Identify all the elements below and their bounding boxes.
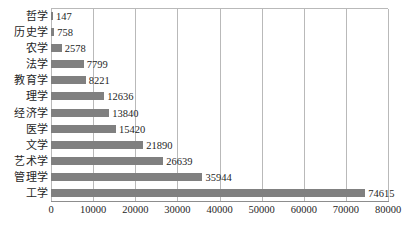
category-label: 哲学 [26, 10, 48, 22]
bar-row: 理学12636 [0, 88, 414, 104]
bar-row: 农学2578 [0, 40, 414, 56]
value-label: 12636 [104, 91, 133, 102]
value-label: 74615 [365, 187, 394, 198]
x-tick-label: 50000 [249, 204, 275, 216]
bar-track: 35944 [51, 173, 388, 181]
value-label: 2578 [62, 43, 86, 54]
bar-track: 26639 [51, 157, 388, 165]
bar-row: 管理学35944 [0, 169, 414, 185]
bar [51, 125, 116, 133]
category-label: 医学 [26, 123, 48, 135]
category-label: 历史学 [14, 26, 48, 38]
category-label: 管理学 [14, 171, 48, 183]
bar [51, 173, 202, 181]
x-tick-label: 40000 [206, 204, 232, 216]
bar-row: 经济学13840 [0, 105, 414, 121]
bar-track: 758 [51, 28, 388, 36]
value-label: 35944 [202, 171, 231, 182]
x-tick-label: 70000 [333, 204, 359, 216]
bar-track: 8221 [51, 76, 388, 84]
x-axis-line [51, 201, 389, 202]
bar [51, 141, 143, 149]
bar-track: 147 [51, 12, 388, 20]
x-tick-label: 10000 [80, 204, 106, 216]
bar-row: 医学15420 [0, 121, 414, 137]
value-label: 7799 [84, 59, 108, 70]
x-tick-label: 20000 [122, 204, 148, 216]
bar-track: 21890 [51, 141, 388, 149]
bar [51, 157, 163, 165]
value-label: 13840 [109, 107, 138, 118]
category-label: 农学 [26, 42, 48, 54]
value-label: 147 [53, 11, 72, 22]
bar-track: 13840 [51, 109, 388, 117]
bar [51, 189, 365, 197]
bar-track: 12636 [51, 92, 388, 100]
bar-row: 法学7799 [0, 56, 414, 72]
x-tick-label: 0 [48, 204, 53, 216]
bar [51, 44, 62, 52]
bar-track: 2578 [51, 44, 388, 52]
bar-track: 74615 [51, 189, 388, 197]
category-label: 经济学 [14, 107, 48, 119]
value-label: 758 [54, 27, 73, 38]
bar-chart: 哲学147历史学758农学2578法学7799教育学8221理学12636经济学… [0, 0, 414, 241]
bar-row: 教育学8221 [0, 72, 414, 88]
bar-row: 历史学758 [0, 24, 414, 40]
value-label: 15420 [116, 123, 145, 134]
value-label: 8221 [86, 75, 110, 86]
category-label: 艺术学 [14, 155, 48, 167]
value-label: 21890 [143, 139, 172, 150]
x-tick-label: 60000 [291, 204, 317, 216]
category-label: 理学 [26, 90, 48, 102]
bar [51, 60, 84, 68]
bar-track: 7799 [51, 60, 388, 68]
bar [51, 92, 104, 100]
bar-rows: 哲学147历史学758农学2578法学7799教育学8221理学12636经济学… [0, 8, 414, 201]
value-label: 26639 [163, 155, 192, 166]
category-label: 教育学 [14, 74, 48, 86]
x-tick-label: 80000 [375, 204, 401, 216]
category-label: 工学 [26, 187, 48, 199]
bar-track: 15420 [51, 125, 388, 133]
bar-row: 艺术学26639 [0, 153, 414, 169]
category-label: 法学 [26, 58, 48, 70]
bar-row: 哲学147 [0, 8, 414, 24]
x-tick-label: 30000 [164, 204, 190, 216]
x-axis-tick-labels: 0100002000030000400005000060000700008000… [0, 204, 414, 224]
bar [51, 76, 86, 84]
category-label: 文学 [26, 139, 48, 151]
bar-row: 工学74615 [0, 185, 414, 201]
bar-row: 文学21890 [0, 137, 414, 153]
bar [51, 109, 109, 117]
